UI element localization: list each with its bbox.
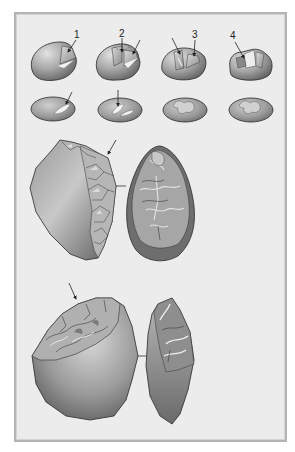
- pebble-step-1: 1: [31, 29, 80, 81]
- step-label-4: 4: [230, 30, 236, 41]
- flake-side-view-2: [146, 298, 194, 424]
- top-view-3: [163, 98, 207, 122]
- step-label-1: 1: [74, 29, 80, 40]
- pebble-step-4: 4: [230, 30, 272, 80]
- pebble-step-2: 2: [96, 28, 140, 80]
- top-view-1: [31, 92, 75, 121]
- top-view-4: [229, 98, 273, 122]
- knapping-diagram: 1 2 3 4: [0, 0, 295, 452]
- step-label-2: 2: [119, 28, 125, 39]
- core-large-2: [32, 283, 138, 420]
- core-large-1: [30, 140, 116, 260]
- pebble-step-3: 3: [162, 29, 206, 80]
- step-label-3: 3: [192, 29, 198, 40]
- flake-top-view-1: [127, 146, 195, 261]
- top-view-2: [98, 90, 142, 122]
